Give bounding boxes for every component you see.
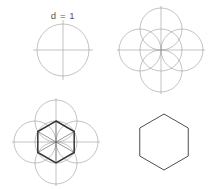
radius-line-upper-right [56,132,74,143]
panel-rosette-with-inscribed-hexagon [12,98,100,186]
hexagon-construction-figure: d = 1 [0,0,215,191]
panel-resulting-hexagon [140,114,189,170]
panel-rosette-five-circles [117,6,205,94]
radius-line-lower-right [56,142,74,153]
result-hexagon [140,114,189,170]
radius-line-upper-left [38,132,56,143]
radius-line-lower-left [38,142,56,153]
figure-canvas: d = 1 [0,0,215,191]
panel-base-circle-with-axes [33,20,93,80]
diameter-label: d = 1 [51,10,75,21]
